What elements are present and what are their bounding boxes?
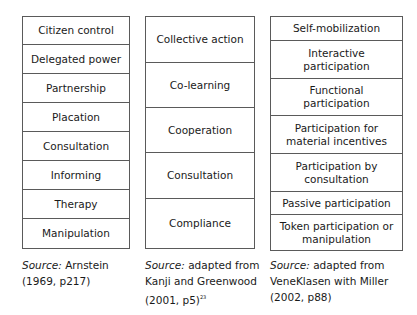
source-text: Arnstein bbox=[62, 259, 109, 271]
rung: Participation by consultation bbox=[271, 154, 402, 192]
kanji-greenwood-ladder: Collective action Co-learning Cooperatio… bbox=[145, 16, 255, 249]
rung: Consultation bbox=[23, 132, 129, 161]
arnstein-ladder: Citizen control Delegated power Partners… bbox=[22, 16, 130, 249]
source-label: Source: bbox=[270, 259, 310, 271]
rung: Therapy bbox=[23, 190, 129, 219]
source-text: (2001, p5) bbox=[145, 294, 200, 306]
rung: Token participation or manipulation bbox=[271, 215, 402, 250]
rung: Participation for material incentives bbox=[271, 116, 402, 154]
rung: Self-mobilization bbox=[271, 17, 402, 41]
rung: Passive participation bbox=[271, 192, 402, 215]
rung: Informing bbox=[23, 161, 129, 190]
rung: Functional participation bbox=[271, 79, 402, 116]
source-text: VeneKlasen with Miller bbox=[270, 273, 388, 289]
source-text: Kanji and Greenwood bbox=[145, 273, 259, 289]
rung: Citizen control bbox=[23, 17, 129, 45]
source-label: Source: bbox=[145, 259, 185, 271]
rung: Manipulation bbox=[23, 219, 129, 248]
rung: Consultation bbox=[146, 153, 254, 199]
veneklasen-miller-ladder: Self-mobilization Interactive participat… bbox=[270, 16, 403, 251]
source-veneklasen-miller: Source: adapted from VeneKlasen with Mil… bbox=[270, 257, 388, 305]
source-text: (2002, p88) bbox=[270, 289, 388, 305]
rung: Partnership bbox=[23, 74, 129, 103]
rung: Cooperation bbox=[146, 108, 254, 153]
source-text: (1969, p217) bbox=[22, 273, 109, 289]
source-label: Source: bbox=[22, 259, 62, 271]
rung: Placation bbox=[23, 103, 129, 132]
source-arnstein: Source: Arnstein (1969, p217) bbox=[22, 257, 109, 289]
rung: Delegated power bbox=[23, 45, 129, 74]
source-text: adapted from bbox=[310, 259, 385, 271]
source-kanji-greenwood: Source: adapted from Kanji and Greenwood… bbox=[145, 257, 259, 308]
rung: Co-learning bbox=[146, 63, 254, 108]
rung: Collective action bbox=[146, 17, 254, 63]
footnote-ref: 23 bbox=[200, 294, 206, 300]
source-text: adapted from bbox=[185, 259, 260, 271]
rung: Interactive participation bbox=[271, 41, 402, 79]
rung: Compliance bbox=[146, 199, 254, 248]
